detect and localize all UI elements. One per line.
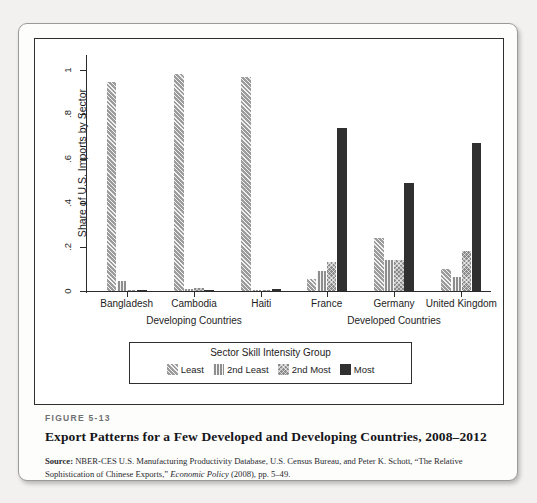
bar-united-kingdom-least xyxy=(441,269,451,291)
figure-card: Share of U.S. Imports by Sector 0.2.4.6.… xyxy=(18,23,518,481)
bar-cambodia-2nd-least xyxy=(184,289,194,291)
x-axis-label-bangladesh: Bangladesh xyxy=(100,298,153,309)
figure-title: Export Patterns for a Few Developed and … xyxy=(45,429,497,445)
x-tick-mark xyxy=(261,292,262,297)
bar-cambodia-most xyxy=(204,290,214,291)
y-tick-label: 0 xyxy=(63,282,73,300)
bar-france-least xyxy=(307,279,317,291)
x-tick-mark xyxy=(127,292,128,297)
y-tick-mark xyxy=(80,114,86,115)
legend-items: Least2nd Least2nd MostMost xyxy=(130,364,411,375)
bar-bangladesh-2nd-least xyxy=(117,281,127,291)
y-tick-label: .8 xyxy=(63,105,73,123)
x-tick-mark xyxy=(394,292,395,297)
bar-united-kingdom-2nd-most xyxy=(462,251,472,291)
x-tick-mark xyxy=(461,292,462,297)
y-tick-label: .4 xyxy=(63,194,73,212)
bar-cambodia-least xyxy=(174,74,184,291)
group-label-developed-countries: Developed Countries xyxy=(347,315,440,326)
bar-germany-2nd-least xyxy=(384,260,394,291)
caption-block: FIGURE 5-13 Export Patterns for a Few De… xyxy=(45,413,497,480)
bar-germany-least xyxy=(374,238,384,291)
bar-united-kingdom-2nd-least xyxy=(452,277,462,291)
source-text-part2: (2008), pp. 5–49. xyxy=(229,469,291,479)
figure-source: Source: NBER-CES U.S. Manufacturing Prod… xyxy=(45,455,497,480)
y-tick-mark xyxy=(80,203,86,204)
y-tick-mark xyxy=(80,159,86,160)
x-axis-label-united-kingdom: United Kingdom xyxy=(426,298,497,309)
legend-label: Most xyxy=(354,364,375,375)
bar-france-most xyxy=(337,128,347,291)
legend-label: 2nd Most xyxy=(292,364,331,375)
bar-united-kingdom-most xyxy=(472,143,482,291)
x-tick-mark xyxy=(194,292,195,297)
y-tick-label: .6 xyxy=(63,150,73,168)
legend-swatch-vertical-lines xyxy=(213,364,224,375)
legend-item-2nd-most[interactable]: 2nd Most xyxy=(278,364,331,375)
x-axis-label-germany: Germany xyxy=(373,298,414,309)
legend: Sector Skill Intensity Group Least2nd Le… xyxy=(129,342,412,384)
bar-germany-2nd-most xyxy=(394,260,404,291)
bar-france-2nd-least xyxy=(317,271,327,291)
bar-haiti-2nd-least xyxy=(252,290,262,291)
x-axis-label-haiti: Haiti xyxy=(251,298,271,309)
legend-swatch-solid xyxy=(340,364,351,375)
source-journal: Economic Policy xyxy=(170,469,228,479)
legend-label: Least xyxy=(181,364,204,375)
plot-area xyxy=(87,57,491,291)
group-label-developing-countries: Developing Countries xyxy=(146,315,242,326)
legend-item-most[interactable]: Most xyxy=(340,364,375,375)
bar-bangladesh-most xyxy=(137,290,147,291)
bar-bangladesh-2nd-most xyxy=(127,290,137,291)
y-tick-label: .2 xyxy=(63,238,73,256)
x-axis-label-france: France xyxy=(311,298,342,309)
y-tick-mark xyxy=(80,70,86,71)
figure-number: FIGURE 5-13 xyxy=(45,413,497,423)
y-tick-mark xyxy=(80,247,86,248)
y-tick-mark xyxy=(80,291,86,292)
bar-germany-most xyxy=(404,183,414,291)
bar-france-2nd-most xyxy=(327,262,337,291)
x-axis-line xyxy=(87,291,491,292)
x-axis-label-cambodia: Cambodia xyxy=(171,298,217,309)
legend-item-2nd-least[interactable]: 2nd Least xyxy=(213,364,269,375)
bar-haiti-most xyxy=(272,289,282,291)
legend-swatch-diagonal-hatch xyxy=(167,364,178,375)
legend-title: Sector Skill Intensity Group xyxy=(130,347,411,358)
legend-label: 2nd Least xyxy=(227,364,269,375)
chart-frame: Share of U.S. Imports by Sector 0.2.4.6.… xyxy=(34,38,504,405)
legend-item-least[interactable]: Least xyxy=(167,364,204,375)
legend-swatch-cross-hatch xyxy=(278,364,289,375)
bar-bangladesh-least xyxy=(107,82,117,291)
bar-cambodia-2nd-most xyxy=(194,288,204,291)
source-lead: Source: xyxy=(45,456,73,466)
bar-haiti-least xyxy=(241,77,251,291)
bar-haiti-2nd-most xyxy=(262,290,272,291)
y-tick-label: 1 xyxy=(63,61,73,79)
x-tick-mark xyxy=(327,292,328,297)
